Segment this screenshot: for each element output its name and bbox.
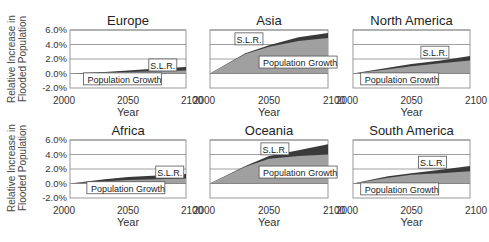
x-axis-label: Year [117, 106, 140, 118]
slr-label: S.L.R. [420, 158, 445, 168]
population-growth-label: Population Growth [91, 184, 165, 194]
x-tick-label: 2050 [400, 95, 423, 106]
panel-africa: AfricaS.L.R.Population Growth6.0%4.0%2.0… [42, 123, 203, 228]
panel-title: Oceania [245, 123, 294, 138]
population-growth-label: Population Growth [87, 75, 161, 85]
x-tick-label: 2050 [258, 95, 281, 106]
slr-label: S.L.R. [236, 35, 261, 45]
x-tick-label: 2000 [53, 205, 76, 216]
y-tick-label: 4.0% [45, 39, 67, 50]
x-tick-label: 2050 [117, 205, 140, 216]
panel-south-america: South AmericaS.L.R.Population Growth2000… [336, 123, 488, 228]
y-tick-label: 2.0% [45, 53, 67, 64]
slr-label: S.L.R. [422, 48, 447, 58]
x-tick-label: 2000 [193, 95, 216, 106]
panel-title: Africa [111, 123, 145, 138]
x-tick-label: 2050 [258, 205, 281, 216]
panel-title: South America [369, 123, 454, 138]
y-tick-label: 0.0% [45, 178, 67, 189]
y-tick-label: 2.0% [45, 163, 67, 174]
x-tick-label: 2000 [336, 205, 359, 216]
y-tick-label: 6.0% [45, 24, 67, 35]
panel-title: North America [370, 13, 453, 28]
y-tick-label: -2.0% [42, 192, 67, 203]
population-growth-label: Population Growth [365, 185, 439, 195]
x-tick-label: 2100 [465, 205, 488, 216]
panel-title: Asia [256, 13, 282, 28]
slr-label: S.L.R. [262, 145, 287, 155]
x-axis-label: Year [400, 106, 423, 118]
slr-label: S.L.R. [157, 168, 182, 178]
x-tick-label: 2000 [336, 95, 359, 106]
y-tick-label: 4.0% [45, 149, 67, 160]
panel-north-america: North AmericaS.L.R.Population Growth2000… [336, 13, 488, 118]
y-tick-label: -2.0% [42, 82, 67, 93]
x-tick-label: 2100 [465, 95, 488, 106]
slr-label: S.L.R. [150, 61, 175, 71]
x-axis-label: Year [258, 216, 281, 228]
population-growth-label: Population Growth [263, 168, 337, 178]
x-tick-label: 2050 [117, 95, 140, 106]
population-growth-label: Population Growth [365, 75, 439, 85]
x-tick-label: 2000 [53, 95, 76, 106]
figure-panels: EuropeS.L.R.Population Growth6.0%4.0%2.0… [0, 0, 489, 242]
panel-oceania: OceaniaS.L.R.Population Growth2000205021… [193, 123, 346, 228]
x-tick-label: 2050 [400, 205, 423, 216]
population-growth-label: Population Growth [263, 58, 337, 68]
y-tick-label: 0.0% [45, 68, 67, 79]
x-axis-label: Year [117, 216, 140, 228]
y-tick-label: 6.0% [45, 134, 67, 145]
panel-europe: EuropeS.L.R.Population Growth6.0%4.0%2.0… [42, 13, 203, 118]
x-axis-label: Year [400, 216, 423, 228]
panel-title: Europe [107, 13, 149, 28]
x-tick-label: 2000 [193, 205, 216, 216]
panel-asia: AsiaS.L.R.Population Growth200020502100Y… [193, 13, 346, 118]
x-axis-label: Year [258, 106, 281, 118]
